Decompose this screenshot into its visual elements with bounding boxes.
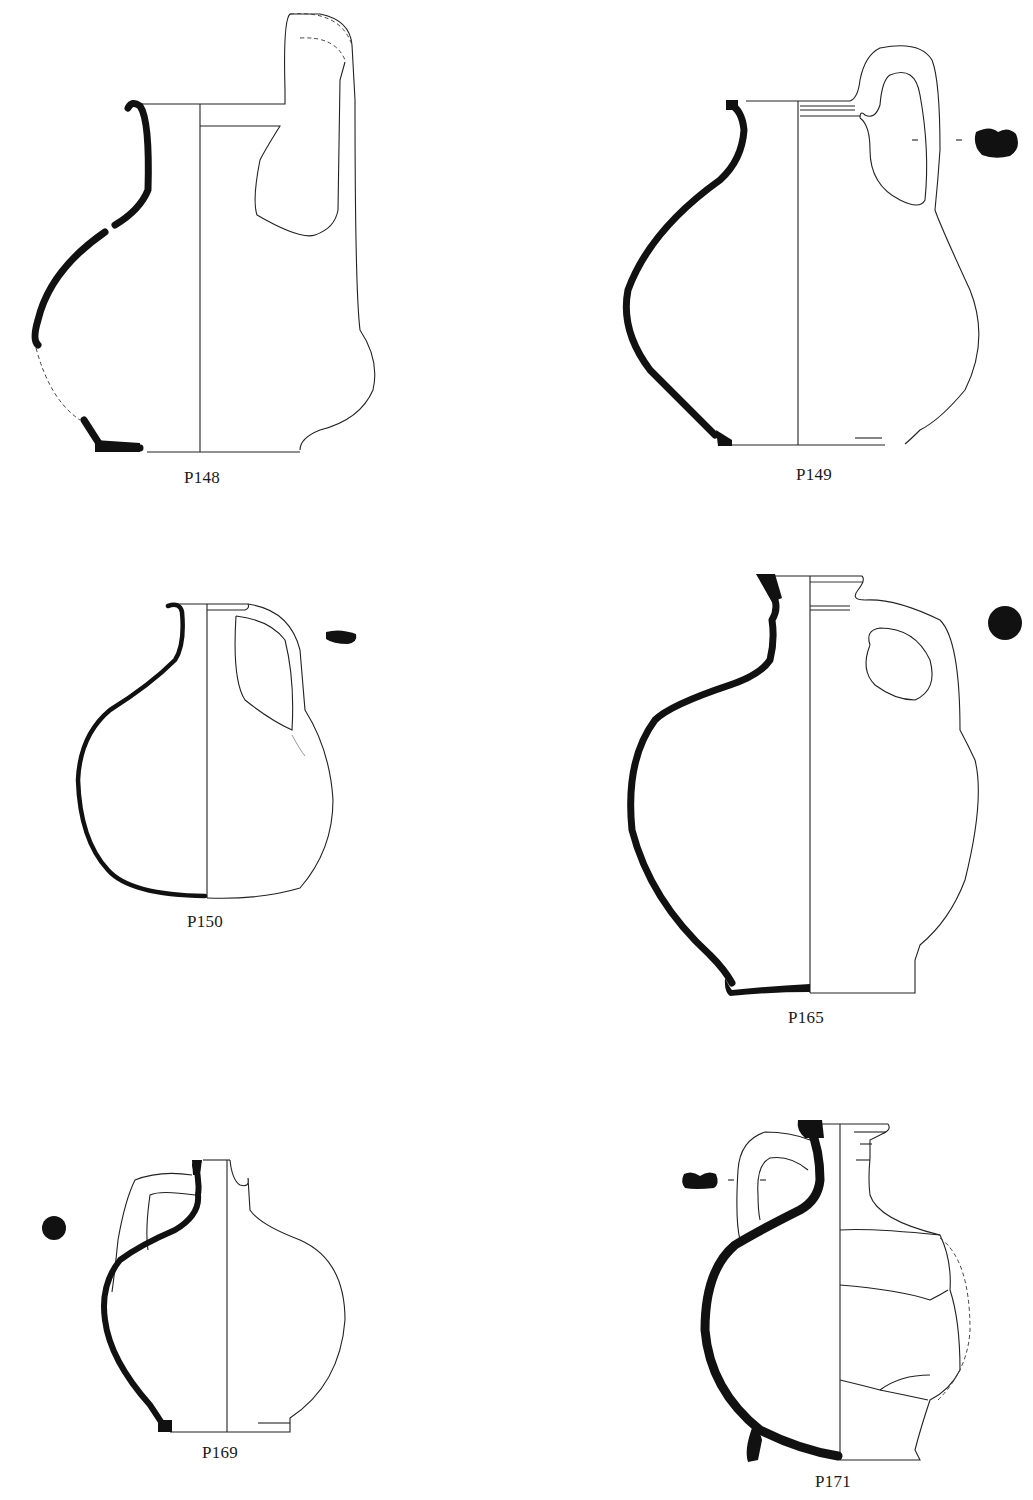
figure-p149: P149 — [520, 0, 1033, 500]
figure-p150: P150 — [0, 560, 520, 960]
handle-section-p149 — [975, 129, 1018, 158]
figure-label-p149: P149 — [764, 465, 864, 485]
handle-section-p169 — [42, 1216, 66, 1240]
jug-drawing-p148 — [0, 0, 520, 500]
figure-label-p169: P169 — [170, 1443, 270, 1463]
jug-drawing-p150 — [0, 560, 520, 960]
jug-drawing-p171 — [520, 1110, 1033, 1500]
jug-drawing-p149 — [520, 0, 1033, 500]
figure-label-p150: P150 — [155, 912, 255, 932]
handle-section-p171 — [682, 1172, 717, 1189]
figure-p165: P165 — [520, 560, 1033, 1040]
handle-section-p165 — [988, 606, 1022, 640]
jug-drawing-p169 — [0, 1120, 520, 1480]
figure-label-p148: P148 — [152, 468, 252, 488]
figure-label-p165: P165 — [756, 1008, 856, 1028]
figure-p169: P169 — [0, 1120, 520, 1480]
figure-label-p171: P171 — [783, 1472, 883, 1492]
jug-drawing-p165 — [520, 560, 1033, 1040]
figure-p148: P148 — [0, 0, 520, 500]
figure-p171: P171 — [520, 1110, 1033, 1500]
handle-section-p150 — [326, 630, 356, 644]
